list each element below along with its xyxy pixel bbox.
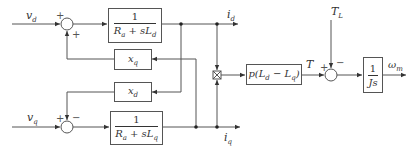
load-torque-label: TL — [331, 6, 343, 20]
sum-q-sign-top: − — [72, 113, 80, 123]
mechanical-block: 1 Js — [363, 57, 383, 93]
branch-dot — [179, 22, 183, 26]
d-axis-transfer-block: 1 Ra + sLd — [108, 8, 162, 43]
sum-torque-sign-left: + — [320, 63, 328, 73]
xq-gain-block: xq — [114, 49, 152, 70]
xd-gain-block: xd — [114, 82, 152, 102]
iq-label: iq — [224, 132, 232, 146]
torque-label: T — [306, 59, 313, 70]
branch-dot — [215, 125, 219, 129]
q-axis-transfer-block: 1 Ra + sLq — [110, 111, 163, 145]
id-label: id — [227, 9, 235, 23]
torque-gain-block: p(Ld − Lq) — [246, 64, 302, 85]
branch-dot — [215, 22, 219, 26]
branch-dot — [194, 125, 198, 129]
sum-d-sign-bottom: + — [72, 30, 80, 40]
sum-torque-sign-top: − — [336, 58, 344, 68]
vd-label: vd — [26, 10, 37, 24]
diagram-wires — [0, 0, 415, 154]
vq-label: vq — [27, 112, 38, 126]
sum-d-sign-left: + — [56, 11, 64, 21]
omega-m-label: ωm — [388, 60, 403, 73]
sum-q-sign-left: + — [56, 114, 64, 124]
